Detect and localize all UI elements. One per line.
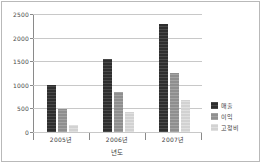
x-tick-label-2005: 2005년 xyxy=(50,135,72,144)
x-axis-separator-start xyxy=(33,133,34,140)
bar-2006-fixed-cost[interactable] xyxy=(125,112,134,132)
bar-2006-profit[interactable] xyxy=(114,92,123,132)
legend-swatch-icon-fixed-cost xyxy=(211,124,218,131)
y-tick-label-1500: 1500 xyxy=(13,58,29,65)
y-tick-mark-1000 xyxy=(30,85,33,86)
y-tick-label-2000: 2000 xyxy=(13,34,29,41)
legend-label-sales: 매출 xyxy=(221,101,233,110)
x-axis-title: 년도 xyxy=(33,147,202,157)
y-tick-label-0: 0 xyxy=(25,129,29,136)
y-tick-mark-500 xyxy=(30,108,33,109)
bar-2007-fixed-cost[interactable] xyxy=(181,100,190,132)
bar-group-2006 xyxy=(103,14,145,132)
bar-2007-profit[interactable] xyxy=(170,73,179,132)
x-axis-separator-2 xyxy=(145,133,146,140)
y-tick-mark-1500 xyxy=(30,61,33,62)
chart-legend: 매출 이익 고정비 xyxy=(211,100,259,133)
y-axis-line xyxy=(33,14,34,133)
legend-label-fixed-cost: 고정비 xyxy=(221,123,240,132)
legend-label-profit: 이익 xyxy=(221,112,233,121)
y-tick-label-2500: 2500 xyxy=(13,11,29,18)
legend-item-sales[interactable]: 매출 xyxy=(211,100,259,111)
bar-group-2005 xyxy=(47,14,89,132)
x-axis-separator-1 xyxy=(89,133,90,140)
x-tick-label-2007: 2007년 xyxy=(162,135,184,144)
x-axis-labels: 2005년 2006년 2007년 xyxy=(33,133,202,145)
legend-item-fixed-cost[interactable]: 고정비 xyxy=(211,122,259,133)
legend-swatch-icon-sales xyxy=(211,102,218,109)
y-tick-label-1000: 1000 xyxy=(13,81,29,88)
bar-2007-sales[interactable] xyxy=(159,24,168,132)
y-tick-mark-2500 xyxy=(30,14,33,15)
x-axis-separator-end xyxy=(201,133,202,140)
legend-item-profit[interactable]: 이익 xyxy=(211,111,259,122)
bar-group-2007 xyxy=(159,14,201,132)
plot-area: 2500 2000 1500 1000 500 0 xyxy=(33,14,202,133)
y-tick-mark-2000 xyxy=(30,38,33,39)
legend-swatch-icon-profit xyxy=(211,113,218,120)
bar-2005-sales[interactable] xyxy=(47,85,56,132)
y-tick-label-500: 500 xyxy=(17,105,29,112)
bar-2005-fixed-cost[interactable] xyxy=(69,125,78,132)
bar-2005-profit[interactable] xyxy=(58,109,67,132)
chart-screenshot: 2500 2000 1500 1000 500 0 xyxy=(0,0,263,165)
x-tick-label-2006: 2006년 xyxy=(106,135,128,144)
bar-2006-sales[interactable] xyxy=(103,59,112,132)
